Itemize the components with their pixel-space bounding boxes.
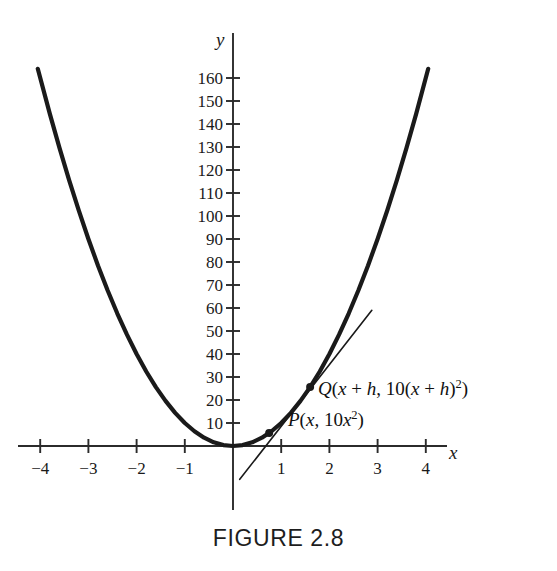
y-tick-label: 30	[177, 369, 223, 386]
y-tick-label: 70	[177, 277, 223, 294]
x-tick-label: −2	[128, 460, 146, 477]
y-tick-label: 140	[177, 116, 223, 133]
y-tick-label: 20	[177, 392, 223, 409]
y-tick-label: 10	[177, 415, 223, 432]
plot-canvas	[0, 0, 557, 571]
x-axis-name-label: x	[449, 443, 457, 462]
x-tick-label: −1	[176, 460, 194, 477]
x-tick-label: 4	[422, 460, 431, 477]
data-point-q	[306, 383, 314, 391]
x-tick-label: −4	[31, 460, 49, 477]
y-tick-label: 130	[177, 139, 223, 156]
figure-caption: FIGURE 2.8	[0, 527, 557, 550]
axes-group	[18, 33, 447, 510]
y-tick-label: 50	[177, 323, 223, 340]
y-tick-label: 160	[177, 70, 223, 87]
y-tick-label: 100	[177, 208, 223, 225]
x-tick-label: 2	[325, 460, 334, 477]
figure-container: 160150140130120110100908070605040302010 …	[0, 0, 557, 571]
y-tick-label: 40	[177, 346, 223, 363]
x-tick-label: 3	[373, 460, 382, 477]
x-tick-label: −3	[79, 460, 97, 477]
point-label-p: P(x, 10x2)	[288, 410, 364, 429]
y-tick-label: 110	[177, 185, 223, 202]
y-axis-name-label: y	[216, 30, 224, 49]
y-tick-label: 80	[177, 254, 223, 271]
y-tick-label: 120	[177, 162, 223, 179]
y-tick-label: 90	[177, 231, 223, 248]
point-label-q: Q(x + h, 10(x + h)2)	[318, 379, 468, 398]
y-tick-label: 60	[177, 300, 223, 317]
data-point-p	[265, 429, 273, 437]
y-tick-label: 150	[177, 93, 223, 110]
x-tick-label: 1	[277, 460, 286, 477]
